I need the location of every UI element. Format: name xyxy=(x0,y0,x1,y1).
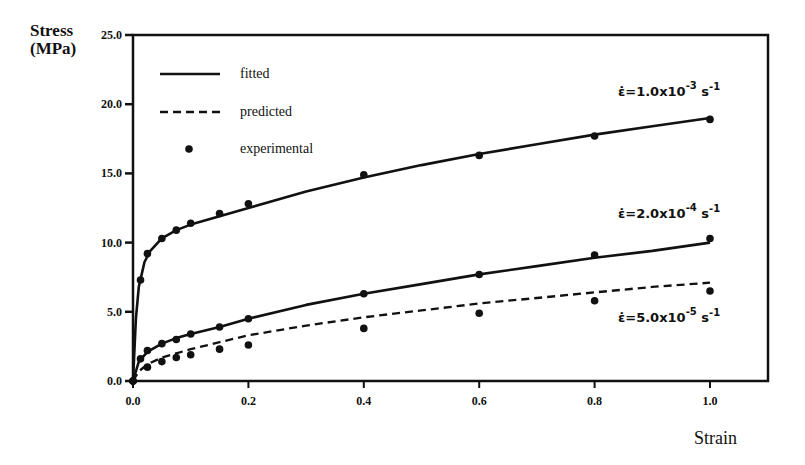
experimental-point xyxy=(360,325,368,333)
experimental-point xyxy=(187,351,195,359)
strain-rate-annotation: ε̇=1.0x10-3 s-1 xyxy=(618,80,720,99)
y-tick-label: 25.0 xyxy=(101,28,122,42)
experimental-point xyxy=(591,132,599,140)
experimental-point xyxy=(187,219,195,227)
y-tick-label: 15.0 xyxy=(101,166,122,180)
y-tick-label: 10.0 xyxy=(101,236,122,250)
experimental-point xyxy=(360,290,368,298)
stress-strain-chart: 0.05.010.015.020.025.00.00.20.40.60.81.0… xyxy=(0,0,805,465)
experimental-point xyxy=(591,251,599,259)
experimental-point xyxy=(216,345,224,353)
plot-area xyxy=(129,116,714,385)
experimental-point xyxy=(172,336,180,344)
experimental-point xyxy=(245,315,253,323)
predicted-curve xyxy=(133,283,710,381)
experimental-point xyxy=(475,271,483,279)
experimental-point xyxy=(245,200,253,208)
experimental-point xyxy=(129,377,137,385)
experimental-point xyxy=(158,358,166,366)
x-tick-label: 0.0 xyxy=(126,394,141,408)
legend-label: predicted xyxy=(240,104,292,119)
experimental-point xyxy=(475,152,483,160)
annotations: ε̇=1.0x10-3 s-1ε̇=2.0x10-4 s-1ε̇=5.0x10-… xyxy=(618,80,720,325)
x-tick-label: 1.0 xyxy=(703,394,718,408)
legend: fittedpredictedexperimental xyxy=(160,66,313,156)
experimental-point xyxy=(706,235,714,243)
experimental-point xyxy=(137,355,145,363)
x-tick-label: 0.8 xyxy=(587,394,602,408)
experimental-point xyxy=(137,276,145,284)
experimental-point xyxy=(216,210,224,218)
experimental-point xyxy=(591,297,599,305)
experimental-point xyxy=(475,309,483,317)
experimental-point xyxy=(144,250,152,258)
experimental-point xyxy=(158,235,166,243)
legend-label: fitted xyxy=(240,66,270,81)
strain-rate-annotation: ε̇=5.0x10-5 s-1 xyxy=(618,306,720,325)
experimental-point xyxy=(187,330,195,338)
experimental-point xyxy=(144,347,152,355)
legend-label: experimental xyxy=(240,141,313,156)
experimental-point xyxy=(245,341,253,349)
x-tick-label: 0.4 xyxy=(356,394,371,408)
experimental-point xyxy=(158,340,166,348)
x-tick-label: 0.6 xyxy=(472,394,487,408)
y-tick-label: 0.0 xyxy=(107,374,122,388)
y-tick-label: 5.0 xyxy=(107,305,122,319)
experimental-point xyxy=(172,354,180,362)
y-tick-label: 20.0 xyxy=(101,97,122,111)
experimental-point xyxy=(706,287,714,295)
experimental-point xyxy=(216,323,224,331)
experimental-point xyxy=(706,116,714,124)
x-tick-label: 0.2 xyxy=(241,394,256,408)
experimental-point xyxy=(144,363,152,371)
experimental-point xyxy=(172,226,180,234)
legend-dot-icon xyxy=(185,145,193,153)
experimental-point xyxy=(360,171,368,179)
strain-rate-annotation: ε̇=2.0x10-4 s-1 xyxy=(618,202,720,221)
